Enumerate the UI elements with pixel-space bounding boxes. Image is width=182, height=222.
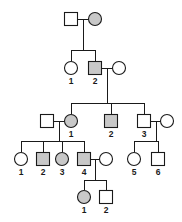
individual-label: 1 bbox=[69, 129, 74, 139]
individual-square-male[interactable] bbox=[78, 153, 91, 166]
generation-V: 1 2 bbox=[78, 191, 113, 216]
individual-square-male[interactable] bbox=[105, 115, 118, 128]
individual-square-male[interactable] bbox=[41, 115, 54, 128]
individual-label: 3 bbox=[60, 167, 65, 177]
individual-square-male[interactable] bbox=[37, 153, 50, 166]
generation-IV: 1 2 3 4 5 6 bbox=[15, 153, 165, 178]
individual-label: 3 bbox=[142, 129, 147, 139]
individual-label: 6 bbox=[156, 167, 161, 177]
individual-circle-female[interactable] bbox=[65, 115, 78, 128]
individual-label: 2 bbox=[109, 129, 114, 139]
individual-label: 1 bbox=[69, 76, 74, 86]
pedigree-diagram: 1 2 1 2 3 1 2 3 4 bbox=[0, 0, 182, 222]
individual-circle-female[interactable] bbox=[78, 191, 91, 204]
individual-circle-female[interactable] bbox=[113, 62, 126, 75]
pedigree-chart: 1 2 1 2 3 1 2 3 4 bbox=[0, 0, 182, 222]
individual-square-male[interactable] bbox=[100, 191, 113, 204]
individual-label: 4 bbox=[82, 167, 87, 177]
individual-circle-female[interactable] bbox=[65, 62, 78, 75]
individual-circle-female[interactable] bbox=[89, 13, 102, 26]
generation-II: 1 2 bbox=[65, 62, 126, 87]
individual-label: 2 bbox=[104, 205, 109, 215]
individual-label: 5 bbox=[132, 167, 137, 177]
individual-circle-female[interactable] bbox=[56, 153, 69, 166]
generation-III: 1 2 3 bbox=[41, 115, 174, 140]
individual-label: 2 bbox=[41, 167, 46, 177]
individual-square-male[interactable] bbox=[138, 115, 151, 128]
individual-label: 1 bbox=[19, 167, 24, 177]
individual-circle-female[interactable] bbox=[100, 153, 113, 166]
individual-circle-female[interactable] bbox=[128, 153, 141, 166]
individual-circle-female[interactable] bbox=[15, 153, 28, 166]
individual-square-male[interactable] bbox=[89, 62, 102, 75]
individual-circle-female[interactable] bbox=[161, 115, 174, 128]
individual-square-male[interactable] bbox=[65, 13, 78, 26]
individual-label: 2 bbox=[93, 76, 98, 86]
individual-square-male[interactable] bbox=[152, 153, 165, 166]
individual-label: 1 bbox=[82, 205, 87, 215]
